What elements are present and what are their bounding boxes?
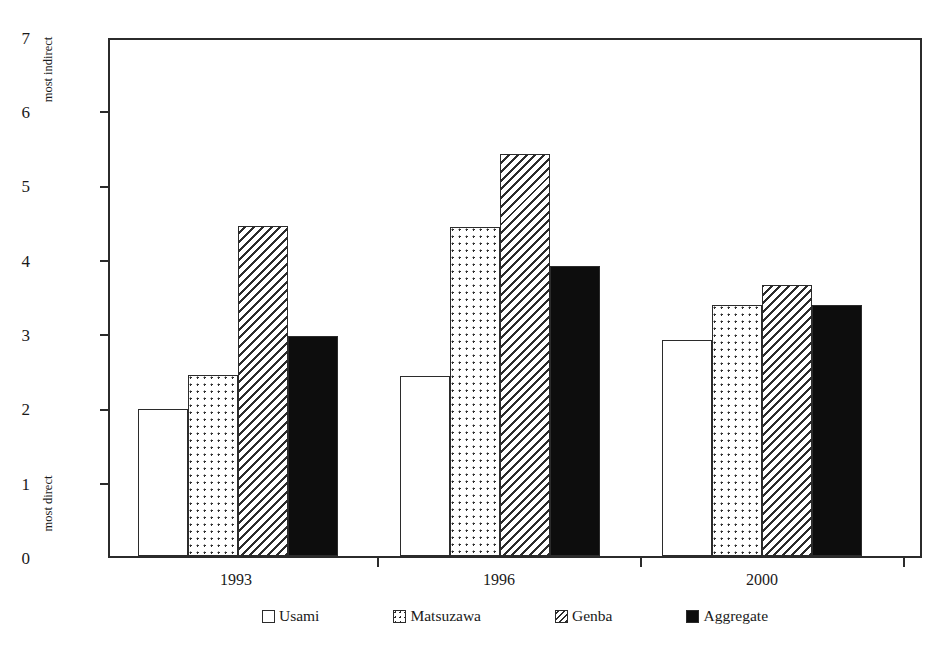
legend-swatch-empty-icon — [262, 610, 275, 623]
y-tick-label-0: 0 — [0, 550, 30, 567]
legend-item-matsuzawa[interactable]: Matsuzawa — [393, 607, 481, 625]
y-axis-anchor-high-label: most indirect — [41, 0, 56, 145]
y-tick-label-2: 2 — [0, 401, 30, 418]
x-tick-label-1996: 1996 — [439, 571, 559, 589]
y-axis-anchor-low-label: most direct — [41, 429, 56, 579]
y-tick-mark-6 — [100, 111, 108, 113]
legend-label-matsuzawa: Matsuzawa — [410, 607, 481, 625]
legend-item-aggregate[interactable]: Aggregate — [686, 607, 768, 625]
y-tick-label-4: 4 — [0, 253, 30, 270]
bar-genba-2000[interactable] — [762, 285, 812, 556]
x-tick-label-2000: 2000 — [702, 571, 822, 589]
chart-legend: Usami Matsuzawa Genba Aggregate — [108, 607, 922, 625]
bar-aggregate-1996[interactable] — [550, 266, 600, 556]
legend-swatch-solid-icon — [686, 610, 699, 623]
x-tick-mark-1993 — [377, 558, 379, 567]
bar-usami-1996[interactable] — [400, 376, 450, 556]
y-tick-mark-3 — [100, 334, 108, 336]
bar-matsuzawa-1993[interactable] — [188, 375, 238, 556]
bar-usami-1993[interactable] — [138, 409, 188, 556]
y-tick-mark-2 — [100, 409, 108, 411]
x-tick-mark-2000 — [903, 558, 905, 567]
legend-label-aggregate: Aggregate — [703, 607, 768, 625]
bar-aggregate-1993[interactable] — [288, 336, 338, 556]
y-tick-label-3: 3 — [0, 327, 30, 344]
bar-matsuzawa-2000[interactable] — [712, 305, 762, 556]
x-tick-label-1993: 1993 — [176, 571, 296, 589]
legend-label-usami: Usami — [279, 607, 319, 625]
y-tick-label-1: 1 — [0, 476, 30, 493]
plot-area — [108, 38, 922, 558]
y-tick-label-7: 7 — [0, 30, 30, 47]
y-tick-mark-5 — [100, 186, 108, 188]
legend-swatch-hatch-icon — [555, 610, 568, 623]
legend-swatch-dots-icon — [393, 610, 406, 623]
legend-item-usami[interactable]: Usami — [262, 607, 319, 625]
y-tick-mark-4 — [100, 260, 108, 262]
y-tick-label-6: 6 — [0, 104, 30, 121]
bar-usami-2000[interactable] — [662, 340, 712, 556]
bar-genba-1993[interactable] — [238, 226, 288, 556]
x-tick-mark-1996 — [640, 558, 642, 567]
bar-matsuzawa-1996[interactable] — [450, 227, 500, 557]
y-tick-mark-1 — [100, 483, 108, 485]
legend-label-genba: Genba — [572, 607, 612, 625]
legend-item-genba[interactable]: Genba — [555, 607, 612, 625]
y-tick-label-5: 5 — [0, 178, 30, 195]
bar-aggregate-2000[interactable] — [812, 305, 862, 556]
bar-genba-1996[interactable] — [500, 154, 550, 556]
chart-figure: Voter Mobilization Strategy most indirec… — [0, 0, 950, 655]
